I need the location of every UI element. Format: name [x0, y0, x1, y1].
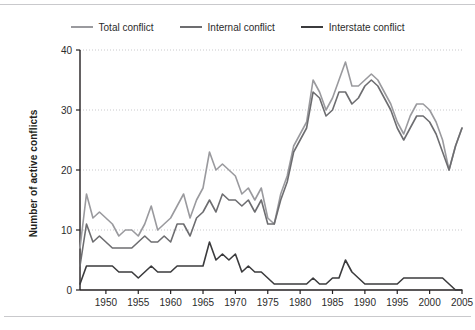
x-tick-label: 2005 [451, 297, 474, 308]
series-line [80, 242, 462, 290]
y-axis-title: Number of active conflicts [28, 94, 39, 254]
axis-ticks [76, 50, 462, 294]
x-tick-label: 1980 [289, 297, 312, 308]
y-tick-label: 30 [61, 105, 73, 116]
y-tick-label: 20 [61, 165, 73, 176]
x-tick-label: 1950 [95, 297, 118, 308]
bottom-divider [4, 316, 471, 317]
x-tick-label: 2000 [419, 297, 442, 308]
x-tick-label: 1995 [386, 297, 409, 308]
x-tick-label: 1975 [257, 297, 280, 308]
line-chart: 010203040 195019551960196519701975198019… [0, 0, 475, 330]
y-tick-label: 40 [61, 45, 73, 56]
y-tick-labels: 010203040 [61, 45, 73, 296]
y-tick-label: 0 [66, 285, 72, 296]
y-tick-label: 10 [61, 225, 73, 236]
x-tick-label: 1990 [354, 297, 377, 308]
data-series [80, 62, 462, 290]
x-tick-label: 1955 [127, 297, 150, 308]
x-tick-label: 1985 [321, 297, 344, 308]
x-tick-label: 1970 [224, 297, 247, 308]
gridlines [80, 50, 462, 230]
x-tick-label: 1965 [192, 297, 215, 308]
figure: Total conflict Internal conflict Interst… [0, 0, 475, 330]
x-tick-labels: 1950195519601965197019751980198519901995… [95, 297, 474, 308]
series-line [80, 62, 462, 248]
plot-area: 010203040 195019551960196519701975198019… [0, 0, 475, 330]
x-tick-label: 1960 [160, 297, 183, 308]
series-line [80, 80, 462, 266]
